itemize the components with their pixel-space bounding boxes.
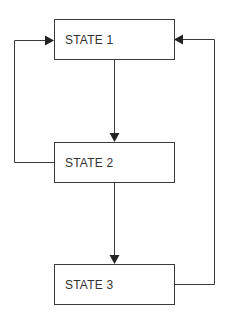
state-1-box: STATE 1 [54,19,175,60]
state-1-label: STATE 1 [65,33,113,47]
state-3-label: STATE 3 [65,278,113,292]
arrow-state3-to-state1 [174,40,215,285]
state-2-box: STATE 2 [54,142,175,183]
arrowhead-right-icon [45,36,54,46]
arrowhead-down-icon [110,133,120,142]
state-3-box: STATE 3 [54,264,175,305]
arrow-state2-to-state1 [15,41,55,163]
state-2-label: STATE 2 [65,156,113,170]
arrowhead-down-icon [110,255,120,264]
arrowhead-left-icon [174,35,183,45]
